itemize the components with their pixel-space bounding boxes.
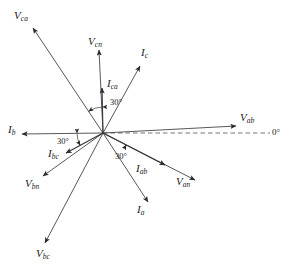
angle-arc-group xyxy=(77,107,126,145)
label-V-an-main: V xyxy=(176,175,183,187)
label-V-an-sub: an xyxy=(183,180,191,189)
label-I-ca: Ica xyxy=(107,78,118,91)
phasor-canvas xyxy=(0,0,289,278)
phasor-vector-v-ab xyxy=(103,126,236,133)
angle-label-ab-lower: 30° xyxy=(115,152,127,161)
label-I-bc-sub: bc xyxy=(52,152,59,161)
label-I-bc: Ibc xyxy=(48,148,59,161)
label-V-bc-main: V xyxy=(36,247,43,259)
label-V-cn-sub: cn xyxy=(95,40,102,49)
label-I-b: Ib xyxy=(8,124,16,137)
label-I-a: Ia xyxy=(137,204,145,217)
label-V-ab-sub: ab xyxy=(247,116,255,125)
label-V-an: Van xyxy=(176,176,190,189)
label-V-bn-main: V xyxy=(25,177,32,189)
label-V-ab: Vab xyxy=(240,112,254,125)
label-V-ca-sub: ca xyxy=(21,14,28,23)
angle-arc-angle-ca-upper xyxy=(89,107,103,111)
label-V-cn-main: V xyxy=(88,35,95,47)
phasor-vector-i-ca xyxy=(102,88,103,133)
phasor-vector-i-b xyxy=(22,133,103,134)
label-V-bn: Vbn xyxy=(25,178,39,191)
phasor-diagram: Vca Vcn Ic Ica Vab Ib Ibc Vbn Iab Van Ia… xyxy=(0,0,289,278)
angle-arc-angle-bc-left xyxy=(77,133,80,145)
label-I-a-sub: a xyxy=(141,208,145,217)
label-V-ab-main: V xyxy=(240,111,247,123)
label-I-ab: Iab xyxy=(136,163,147,176)
label-I-ca-sub: ca xyxy=(111,82,118,91)
angle-label-bc-left: 30° xyxy=(57,137,69,146)
label-V-ca-main: V xyxy=(14,9,21,21)
label-V-bc-sub: bc xyxy=(43,252,50,261)
label-V-bc: Vbc xyxy=(36,248,50,261)
phasor-vector-group xyxy=(22,28,236,243)
label-I-c: Ic xyxy=(141,47,148,60)
label-I-ab-sub: ab xyxy=(140,167,148,176)
phasor-vector-i-ab xyxy=(103,133,165,165)
label-I-b-sub: b xyxy=(12,128,16,137)
angle-label-ca-upper: 30° xyxy=(110,98,122,107)
label-V-cn: Vcn xyxy=(88,36,102,49)
label-I-c-sub: c xyxy=(145,51,148,60)
reference-axis-label: 0° xyxy=(272,128,280,137)
label-V-bn-sub: bn xyxy=(32,182,40,191)
label-V-ca: Vca xyxy=(14,10,28,23)
